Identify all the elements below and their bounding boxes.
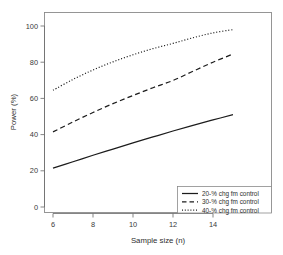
y-tick-label-0: 0 [34,203,38,212]
legend[interactable]: 20-% chg fm control 30-% chg fm control … [178,187,272,215]
x-axis-title: Sample size (n) [131,236,186,245]
series-line-30pct [53,54,233,132]
y-tick-label-80: 80 [30,58,38,67]
power-curve-figure: 100 80 60 40 20 0 6 8 10 12 14 Sample si… [0,0,283,255]
x-tick-label-12: 12 [169,220,177,229]
legend-label-30pct: 30-% chg fm control [202,198,259,206]
legend-label-40pct: 40-% chg fm control [202,207,259,215]
x-tick-label-10: 10 [129,220,137,229]
y-tick-label-40: 40 [30,130,38,139]
plot-frame [45,13,272,213]
y-tick-group [41,26,45,207]
series-line-20pct [53,115,233,168]
y-axis: 100 80 60 40 20 0 [26,22,45,212]
x-tick-label-14: 14 [209,220,217,229]
series-group [53,30,233,168]
legend-label-20pct: 20-% chg fm control [202,190,259,198]
x-tick-group [53,214,213,218]
x-axis: 6 8 10 12 14 [51,214,217,230]
y-tick-label-60: 60 [30,94,38,103]
x-tick-label-6: 6 [51,220,55,229]
series-line-40pct [53,30,233,91]
x-tick-label-8: 8 [91,220,95,229]
power-vs-sample-size-chart: 100 80 60 40 20 0 6 8 10 12 14 Sample si… [0,0,283,255]
y-tick-label-20: 20 [30,166,38,175]
y-tick-label-100: 100 [26,22,38,31]
y-axis-title: Power (%) [9,93,18,130]
